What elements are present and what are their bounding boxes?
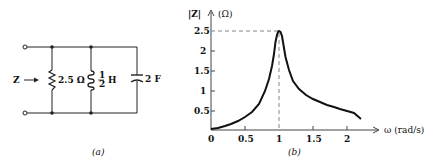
y-tick-label: 1.5 bbox=[194, 66, 210, 76]
x-ticks bbox=[245, 126, 347, 130]
junction-dot bbox=[89, 111, 93, 115]
y-axis-label: |Z| bbox=[188, 9, 201, 20]
resistor-zigzag bbox=[49, 70, 55, 90]
y-axis-unit: (Ω) bbox=[218, 9, 232, 19]
resistor-label: 2.5 Ω bbox=[58, 75, 85, 85]
impedance-curve bbox=[211, 31, 361, 129]
capacitor-label: 2 F bbox=[145, 74, 161, 84]
y-tick-label: 2 bbox=[200, 46, 206, 56]
x-axis-label: ω (rad/s) bbox=[384, 125, 424, 135]
terminal-bottom bbox=[23, 111, 27, 115]
inductor-coil bbox=[88, 71, 94, 90]
inductor-unit: H bbox=[108, 75, 117, 85]
input-arrow-head bbox=[34, 78, 39, 83]
x-tick-label: 2 bbox=[344, 134, 350, 144]
y-tick-label: 0.5 bbox=[194, 106, 210, 116]
impedance-label: Z bbox=[13, 75, 20, 85]
caption-b: (b) bbox=[288, 147, 301, 157]
x-tick-label: 1 bbox=[276, 134, 282, 144]
x-tick-label: 1.5 bbox=[306, 134, 322, 144]
chart: 2.5 2 1.5 1 0.5 0 0.5 1 1.5 2 |Z| (Ω) ω … bbox=[188, 9, 424, 157]
circuit-diagram bbox=[27, 47, 143, 113]
inductor-label-den: 2 bbox=[99, 79, 105, 89]
y-tick-label: 1 bbox=[200, 86, 206, 96]
junction-dot bbox=[50, 111, 54, 115]
x-tick-label: 0 bbox=[208, 134, 214, 144]
caption-a: (a) bbox=[92, 147, 105, 157]
y-tick-label: 2.5 bbox=[194, 26, 210, 36]
x-tick-label: 0.5 bbox=[238, 134, 254, 144]
junction-dot bbox=[50, 45, 54, 49]
figure: Z 2.5 Ω 1 2 H 2 F (a) 2.5 2 bbox=[0, 0, 442, 168]
terminal-top bbox=[23, 45, 27, 49]
y-ticks bbox=[211, 51, 215, 111]
junction-dot bbox=[89, 45, 93, 49]
